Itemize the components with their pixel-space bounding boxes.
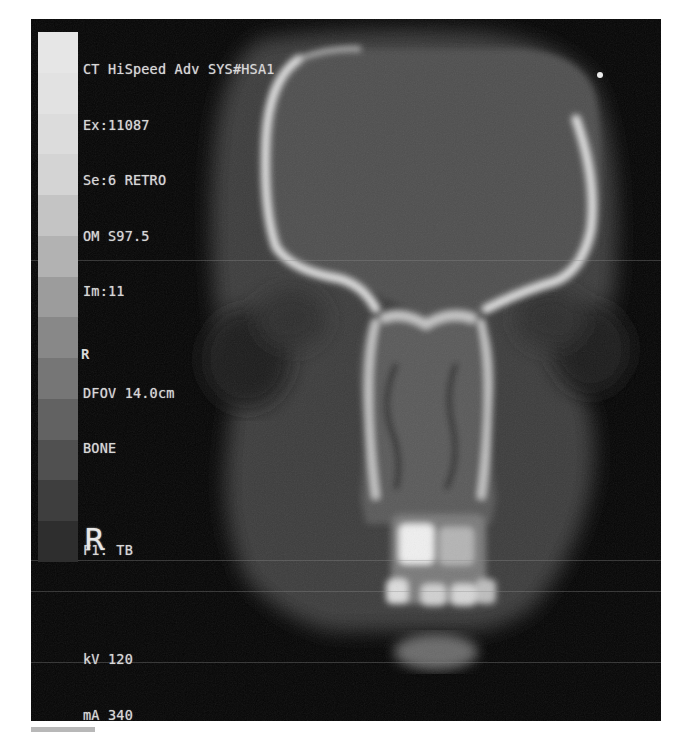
ct-image-viewport: CT HiSpeed Adv SYS#HSA1 Ex:11087 Se:6 RE… <box>31 19 661 721</box>
filter-label: F1: TB <box>83 541 275 560</box>
grayscale-step <box>38 440 78 481</box>
scan-info-overlay: CT HiSpeed Adv SYS#HSA1 Ex:11087 Se:6 RE… <box>83 23 275 596</box>
grayscale-step <box>38 480 78 521</box>
image-number: Im:11 <box>83 282 275 301</box>
grayscale-step <box>38 358 78 399</box>
caption-divider <box>31 727 95 732</box>
kernel-label: BONE <box>83 439 275 458</box>
exam-number: Ex:11087 <box>83 116 275 135</box>
scanner-label: CT HiSpeed Adv SYS#HSA1 <box>83 60 275 79</box>
orientation-marker-right: R <box>84 522 105 557</box>
grayscale-reference-bar <box>38 32 78 562</box>
dfov-label: DFOV 14.0cm <box>83 384 275 403</box>
ma-label: mA 340 <box>83 706 166 722</box>
grayscale-step <box>38 521 78 562</box>
grayscale-step <box>38 236 78 277</box>
grayscale-step <box>38 114 78 155</box>
orientation-marker-small: R <box>81 346 89 362</box>
grayscale-step <box>38 317 78 358</box>
grayscale-step <box>38 399 78 440</box>
grayscale-step <box>38 277 78 318</box>
kv-label: kV 120 <box>83 650 166 669</box>
grayscale-step <box>38 73 78 114</box>
position-label: OM S97.5 <box>83 227 275 246</box>
acquisition-params-overlay: kV 120 mA 340 Adult Head 3.0mm/1:1 Tilt … <box>83 613 166 721</box>
grayscale-step <box>38 195 78 236</box>
series-label: Se:6 RETRO <box>83 171 275 190</box>
grayscale-step <box>38 154 78 195</box>
grayscale-step <box>38 32 78 73</box>
